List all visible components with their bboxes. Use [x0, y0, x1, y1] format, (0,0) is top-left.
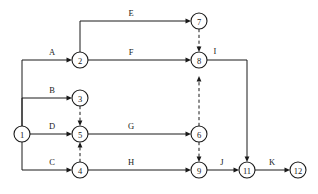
edge-dummy-6-8	[197, 76, 202, 126]
edge-E	[80, 19, 191, 52]
edge-label-E: E	[128, 8, 133, 18]
node-9: 9	[191, 162, 207, 178]
edge-J	[207, 168, 239, 173]
edge-A-path	[22, 60, 69, 126]
edge-dummy-4-5	[78, 142, 83, 162]
edge-label-H: H	[128, 157, 134, 167]
edge-label-D: D	[49, 121, 55, 131]
edge-dummy-3-5	[78, 106, 83, 126]
node-11: 11	[239, 162, 255, 178]
edge-label-B: B	[49, 85, 55, 95]
edge-C-arrowhead	[67, 168, 73, 173]
edge-label-J: J	[220, 157, 224, 167]
node-4: 4	[72, 162, 88, 178]
edge-dummy-7-8	[197, 29, 202, 52]
edge-label-C: C	[49, 157, 55, 167]
node-9-label: 9	[197, 166, 201, 176]
node-2-label: 2	[78, 56, 82, 66]
edge-label-I: I	[214, 46, 217, 56]
edge-D	[30, 132, 72, 137]
edge-A-arrowhead	[67, 58, 73, 63]
edge-dummy-6-9	[197, 142, 202, 162]
node-5: 5	[72, 126, 88, 142]
edge-E-path	[80, 21, 188, 52]
node-6-label: 6	[197, 130, 201, 140]
edge-dummy-3-5-arrowhead	[78, 121, 83, 127]
edge-B-path	[22, 98, 69, 126]
edge-K-arrowhead	[285, 168, 291, 173]
node-3-label: 3	[78, 94, 82, 104]
node-5-label: 5	[78, 130, 82, 140]
edge-I-arrowhead	[245, 157, 250, 163]
edge-G-arrowhead	[186, 132, 192, 137]
node-11-label: 11	[243, 166, 251, 176]
edge-C	[22, 142, 72, 172]
node-6: 6	[191, 126, 207, 142]
edge-I	[207, 60, 249, 162]
edge-label-A: A	[49, 47, 56, 57]
edge-F	[88, 58, 191, 63]
edge-H-arrowhead	[186, 168, 192, 173]
edge-dummy-7-8-arrowhead	[197, 47, 202, 53]
edge-J-arrowhead	[234, 168, 240, 173]
edge-label-K: K	[269, 157, 276, 167]
node-1-label: 1	[20, 130, 24, 140]
edge-label-G: G	[128, 121, 134, 131]
node-7: 7	[191, 13, 207, 29]
edge-B-arrowhead	[67, 96, 73, 101]
edge-label-F: F	[129, 47, 134, 57]
node-2: 2	[72, 52, 88, 68]
edge-C-path	[22, 142, 69, 170]
edge-E-arrowhead	[186, 19, 192, 24]
node-3: 3	[72, 90, 88, 106]
node-1: 1	[14, 126, 30, 142]
edge-B	[22, 96, 72, 126]
edge-dummy-6-9-arrowhead	[197, 157, 202, 163]
network-diagram: A B C D E F G H I J K 1 2 3 4 5	[0, 0, 318, 194]
edge-dummy-4-5-arrowhead	[78, 142, 83, 148]
edge-K	[255, 168, 290, 173]
node-8: 8	[191, 52, 207, 68]
edge-H	[88, 168, 191, 173]
network-diagram-canvas: A B C D E F G H I J K 1 2 3 4 5	[0, 0, 318, 194]
edge-F-arrowhead	[186, 58, 192, 63]
edge-dummy-6-8-arrowhead	[197, 76, 202, 82]
node-7-label: 7	[197, 17, 201, 27]
edge-D-arrowhead	[67, 132, 73, 137]
edge-I-path	[207, 60, 247, 159]
node-8-label: 8	[197, 56, 201, 66]
node-12: 12	[290, 162, 306, 178]
node-12-label: 12	[294, 166, 303, 176]
edge-G	[88, 132, 191, 137]
edge-A	[22, 58, 72, 126]
